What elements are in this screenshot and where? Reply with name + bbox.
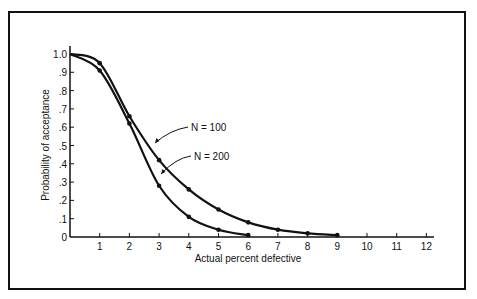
x-tick-label: 10 xyxy=(361,241,373,252)
x-tick-label: 9 xyxy=(335,241,341,252)
y-tick-label: .4 xyxy=(59,159,68,170)
curves xyxy=(70,54,340,237)
x-tick-label: 1 xyxy=(97,241,103,252)
curve-n200 xyxy=(70,54,248,235)
x-tick-label: 6 xyxy=(245,241,251,252)
y-tick-label: .1 xyxy=(59,214,68,225)
y-tick-label: .9 xyxy=(59,67,68,78)
x-tick-label: 7 xyxy=(275,241,281,252)
y-tick-label: .6 xyxy=(59,122,68,133)
data-point-marker xyxy=(97,68,102,73)
data-point-marker xyxy=(216,227,221,232)
x-tick-label: 3 xyxy=(156,241,162,252)
x-tick-label: 8 xyxy=(305,241,311,252)
y-tick-label: .5 xyxy=(59,141,68,152)
y-tick-label: 1.0 xyxy=(53,49,67,60)
data-point-marker xyxy=(246,220,251,225)
data-point-marker xyxy=(276,227,281,232)
data-point-marker xyxy=(157,183,162,188)
y-tick-label: 0 xyxy=(61,232,67,243)
arrow-n200 xyxy=(161,156,191,174)
data-point-marker xyxy=(127,121,132,126)
data-point-marker xyxy=(187,187,192,192)
oc-curve-chart: 1234567891011120.1.2.3.4.5.6.7.8.91.0 N … xyxy=(0,0,477,299)
data-point-marker xyxy=(246,233,251,238)
x-axis-label: Actual percent defective xyxy=(195,253,302,264)
x-tick-label: 2 xyxy=(127,241,133,252)
curve-n100 xyxy=(70,54,337,235)
label-n100: N = 100 xyxy=(191,122,227,133)
x-tick-label: 5 xyxy=(216,241,222,252)
label-n200: N = 200 xyxy=(194,151,230,162)
x-tick-label: 4 xyxy=(186,241,192,252)
y-tick-label: .8 xyxy=(59,86,68,97)
arrow-n100 xyxy=(155,127,188,143)
data-point-marker xyxy=(187,215,192,220)
y-tick-label: .2 xyxy=(59,195,68,206)
y-axis-label: Probability of acceptance xyxy=(40,89,51,201)
data-point-marker xyxy=(157,158,162,163)
data-point-marker xyxy=(97,61,102,66)
annotations: N = 100N = 200 xyxy=(155,122,230,174)
x-tick-label: 11 xyxy=(392,241,403,252)
x-tick-label: 12 xyxy=(421,241,433,252)
arrowhead-icon xyxy=(155,138,160,143)
data-point-marker xyxy=(305,231,310,236)
y-tick-label: .7 xyxy=(59,104,68,115)
y-tick-label: .3 xyxy=(59,177,68,188)
data-point-marker xyxy=(127,114,132,119)
data-point-marker xyxy=(216,207,221,212)
data-point-marker xyxy=(335,233,340,238)
